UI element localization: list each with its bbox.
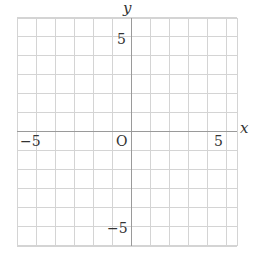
coordinate-grid: [0, 0, 260, 259]
tick-label-y-neg5: −5: [107, 221, 128, 235]
tick-label-x-pos5: 5: [214, 134, 223, 148]
tick-label-x-neg5: −5: [20, 134, 41, 148]
origin-label: O: [116, 134, 127, 148]
x-axis-label: x: [240, 121, 248, 135]
y-axis-label: y: [123, 1, 131, 15]
tick-label-y-pos5: 5: [117, 32, 126, 46]
